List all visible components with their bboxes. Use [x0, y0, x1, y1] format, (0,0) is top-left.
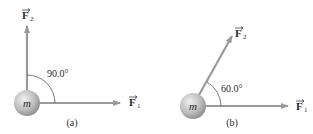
force1-label: F 1 — [296, 100, 308, 115]
angle-label: 60.0° — [221, 83, 243, 94]
mass-label: m — [189, 100, 197, 112]
svg-text:2: 2 — [243, 33, 247, 41]
caption: (a) — [66, 117, 77, 129]
svg-text:F: F — [129, 96, 136, 108]
angle-arc — [207, 82, 221, 106]
svg-text:1: 1 — [137, 102, 141, 110]
angle-label: 90.0° — [47, 68, 69, 79]
svg-text:1: 1 — [304, 106, 308, 114]
force1-label: F 1 — [129, 96, 141, 111]
panel-a: m 90.0° F 2 F 1 (a) — [14, 9, 141, 130]
caption: (b) — [226, 117, 238, 129]
panel-b: m 60.0° F 2 F 1 (b) — [180, 27, 308, 130]
svg-text:F: F — [22, 9, 29, 21]
mass-label: m — [23, 97, 31, 109]
svg-text:F: F — [296, 100, 303, 112]
force2-label: F 2 — [235, 27, 247, 42]
svg-text:2: 2 — [30, 15, 34, 23]
force-diagram: m 90.0° F 2 F 1 (a) m 60.0° F 2 F 1 — [0, 0, 313, 134]
force2-label: F 2 — [22, 9, 34, 24]
svg-text:F: F — [235, 27, 242, 39]
